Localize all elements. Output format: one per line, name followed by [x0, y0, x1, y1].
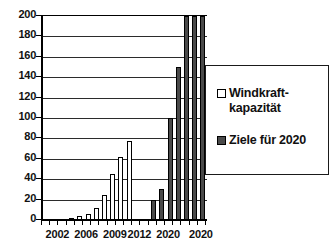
gridline: [43, 179, 207, 180]
x-axis-tickmark: [74, 220, 75, 225]
y-axis-tick-label: 60: [6, 152, 36, 163]
y-axis-tick-label: 180: [6, 29, 36, 40]
x-axis-tickmark: [205, 220, 206, 225]
legend-entry-ziele-fuer-2020: Ziele für 2020: [217, 133, 306, 148]
x-axis-tickmark: [57, 220, 58, 225]
x-axis-tick-label: 2009: [103, 228, 127, 240]
x-axis-tick-label: 2012: [128, 228, 152, 240]
bar: [176, 67, 181, 220]
x-axis-tickmark: [66, 220, 67, 225]
x-axis-tickmark: [139, 220, 140, 225]
x-axis-tickmark: [189, 220, 190, 225]
y-axis-labels: 020406080100120140160180200: [0, 0, 36, 252]
chart-legend: Windkraft- kapazität Ziele für 2020: [205, 65, 329, 175]
x-axis-labels: 200220062009201220202020: [0, 228, 334, 244]
bar: [159, 189, 164, 220]
y-axis-tick-label: 120: [6, 91, 36, 102]
y-axis-tick-label: 160: [6, 50, 36, 61]
x-axis-tickmark: [164, 220, 165, 225]
legend-label: Ziele für 2020: [229, 133, 306, 148]
bar: [118, 157, 123, 220]
x-axis-tickmark: [115, 220, 116, 225]
legend-label: Windkraft- kapazität: [229, 86, 289, 116]
gridline: [43, 36, 207, 37]
plot-area: [41, 15, 207, 220]
x-axis-tickmark: [148, 220, 149, 225]
gridline: [43, 138, 207, 139]
x-axis-tickmark: [107, 220, 108, 225]
x-axis-tick-label: 2002: [46, 228, 70, 240]
x-axis-tick-label: 2020: [189, 228, 213, 240]
bar: [110, 174, 115, 220]
x-axis-tickmark: [41, 220, 42, 225]
x-axis-tickmark: [131, 220, 132, 225]
gridline: [43, 98, 207, 99]
gridline: [43, 57, 207, 58]
bar: [151, 200, 156, 220]
gridline: [43, 159, 207, 160]
legend-entry-windkraft-kapazitaet: Windkraft- kapazität: [217, 86, 289, 116]
legend-swatch-light-square: [217, 89, 226, 98]
wind-capacity-bar-chart: 020406080100120140160180200 200220062009…: [0, 0, 334, 252]
bar: [192, 16, 197, 220]
x-axis-tickmark: [180, 220, 181, 225]
y-axis-tick-label: 0: [6, 213, 36, 224]
x-axis-tickmark: [98, 220, 99, 225]
legend-swatch-dark-square: [217, 136, 226, 145]
x-axis-tick-label: 2020: [156, 228, 180, 240]
x-axis-tickmark: [49, 220, 50, 225]
x-axis-tickmark: [156, 220, 157, 225]
y-axis-tick-label: 20: [6, 193, 36, 204]
y-axis-tick-label: 140: [6, 70, 36, 81]
gridline: [43, 77, 207, 78]
y-axis-tick-label: 80: [6, 131, 36, 142]
y-axis-tick-label: 100: [6, 111, 36, 122]
bar: [102, 195, 107, 221]
x-axis-tickmark: [90, 220, 91, 225]
x-axis-tick-label: 2006: [74, 228, 98, 240]
x-axis-tickmark: [172, 220, 173, 225]
bar: [184, 16, 189, 220]
x-axis-tickmark: [197, 220, 198, 225]
y-axis-tick-label: 200: [6, 9, 36, 20]
bar: [127, 141, 132, 220]
x-axis-tickmark: [82, 220, 83, 225]
y-axis-tick-label: 40: [6, 172, 36, 183]
bar: [168, 118, 173, 220]
gridline: [43, 118, 207, 119]
x-axis-tickmark: [123, 220, 124, 225]
gridline: [43, 200, 207, 201]
